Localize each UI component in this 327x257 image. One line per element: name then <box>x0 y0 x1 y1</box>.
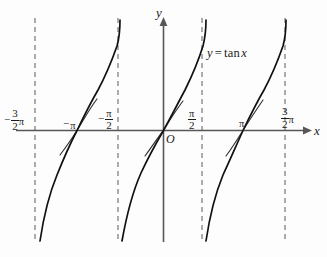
equation-operator: = <box>213 46 224 60</box>
origin-label: O <box>166 133 175 145</box>
tangent-graph-figure: y x O y=tan x − 3 2 π −π − π 2 π 2 π <box>0 0 327 257</box>
tick-label-pi-over-two: π 2 <box>188 108 196 132</box>
sketch-stroke-center-upper <box>164 101 183 129</box>
fraction-pi-over-two: π 2 <box>188 108 196 132</box>
pi-symbol: π <box>289 114 294 125</box>
tick-sign: − <box>4 113 11 125</box>
fraction-pi-over-two: π 2 <box>105 108 113 132</box>
tick-label-minus-pi-over-two: − π 2 <box>98 108 113 132</box>
equation-function: tan <box>224 46 240 60</box>
fraction-denominator: 2 <box>105 120 113 132</box>
y-axis-label: y <box>156 6 162 19</box>
tangent-plot-svg <box>0 0 327 257</box>
tick-sign: − <box>98 112 105 124</box>
sketch-stroke-right-upper <box>244 100 263 129</box>
x-axis-label: x <box>314 124 320 137</box>
sketch-stroke-left-upper <box>78 99 97 129</box>
fraction-denominator: 2 <box>11 121 19 133</box>
equation-lhs: y <box>207 46 213 60</box>
sketch-stroke-center-lower <box>145 132 162 156</box>
tick-label-pi: π <box>239 118 244 130</box>
pi-symbol: π <box>239 118 244 129</box>
equation-argument: x <box>241 46 247 60</box>
fraction-numerator: 3 <box>11 108 19 121</box>
sketch-stroke-left-lower <box>60 132 76 155</box>
tangent-sketch-overstrokes <box>60 99 263 156</box>
x-axis-arrowhead <box>303 127 312 135</box>
equation-label: y=tan x <box>207 47 247 60</box>
tick-label-minus-three-halves-pi: − 3 2 π <box>4 108 24 132</box>
fraction-three-halves: 3 2 <box>11 108 19 132</box>
pi-symbol: π <box>70 120 75 131</box>
tick-label-three-halves-pi: 3 2 π <box>281 106 294 130</box>
fraction-denominator: 2 <box>281 119 289 131</box>
fraction-numerator: 3 <box>281 106 289 119</box>
fraction-three-halves: 3 2 <box>281 106 289 130</box>
tick-label-minus-pi: −π <box>63 118 76 131</box>
fraction-denominator: 2 <box>188 120 196 132</box>
pi-symbol: π <box>19 116 24 127</box>
